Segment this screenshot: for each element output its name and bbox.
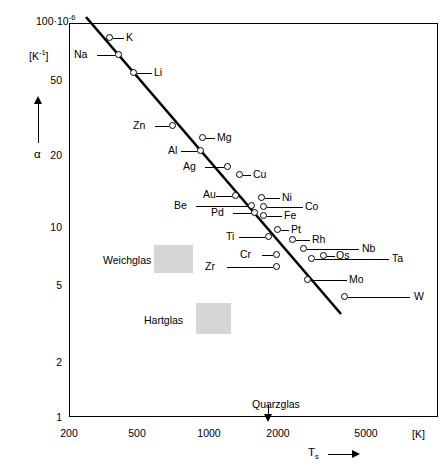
data-point-Ti[interactable] <box>265 233 272 240</box>
label-Be: Be <box>174 200 187 211</box>
ytick-2: 2 <box>28 357 62 368</box>
data-point-Mo[interactable] <box>304 276 311 283</box>
ytick-50: 50 <box>28 75 62 86</box>
xtick-1000: 1000 <box>189 428 229 439</box>
leader-Pd <box>233 213 251 214</box>
plot-area-frame <box>69 23 438 417</box>
leader-Al <box>181 151 197 152</box>
leader-Ag <box>205 167 224 168</box>
label-Li: Li <box>154 67 162 78</box>
label-Co: Co <box>305 201 318 212</box>
data-point-K[interactable] <box>106 34 113 41</box>
data-point-W[interactable] <box>341 293 348 300</box>
data-point-Al[interactable] <box>197 147 204 154</box>
leader-Cu <box>243 175 251 176</box>
data-point-Zn[interactable] <box>169 122 176 129</box>
label-Nb: Nb <box>362 243 375 254</box>
chart-container: 100·10-6 [K-1] α 50 20 10 5 2 1 200 500 … <box>0 0 447 474</box>
label-Cu: Cu <box>253 169 266 180</box>
data-point-Rh[interactable] <box>289 236 296 243</box>
label-Cr: Cr <box>240 249 251 260</box>
label-Mo: Mo <box>349 274 364 285</box>
data-point-Pd[interactable] <box>251 209 258 216</box>
data-point-Li[interactable] <box>130 69 137 76</box>
xtick-500: 500 <box>117 428 157 439</box>
leader-Au <box>216 196 232 197</box>
label-Mg: Mg <box>217 132 232 143</box>
data-point-Fe[interactable] <box>260 212 267 219</box>
region-hartglas-box <box>196 303 231 334</box>
data-point-Au[interactable] <box>232 192 239 199</box>
leader-Zn <box>155 126 169 127</box>
y-axis-unit: [K-1] <box>29 48 49 62</box>
data-point-Zr[interactable] <box>273 263 280 270</box>
label-Ta: Ta <box>392 253 403 264</box>
region-weichglas-label: Weichglas <box>103 255 151 266</box>
leader-Rh <box>296 240 310 241</box>
x-axis-unit: [K] <box>412 428 425 440</box>
leader-Li <box>137 73 152 74</box>
data-point-Ta[interactable] <box>308 255 315 262</box>
label-K: K <box>126 32 133 43</box>
xtick-2000: 2000 <box>258 428 298 439</box>
data-point-Ni[interactable] <box>258 194 265 201</box>
leader-Zr <box>227 267 273 268</box>
leader-W <box>348 297 410 298</box>
leader-Mg <box>206 138 215 139</box>
leader-Cr <box>262 255 273 256</box>
label-Rh: Rh <box>312 234 325 245</box>
annotation-quarzglas-label: Quarzglas <box>252 399 300 410</box>
leader-K <box>113 38 124 39</box>
data-point-Cu[interactable] <box>236 171 243 178</box>
ytick-5: 5 <box>28 280 62 291</box>
data-point-Pt[interactable] <box>274 226 281 233</box>
data-point-Mg[interactable] <box>199 134 206 141</box>
leader-Nb <box>307 249 359 250</box>
leader-Be <box>196 206 248 207</box>
label-W: W <box>414 291 424 302</box>
x-axis-symbol-ts: Ts <box>308 446 319 461</box>
label-Pd: Pd <box>211 207 224 218</box>
leader-Na <box>97 55 115 56</box>
label-Al: Al <box>168 145 177 156</box>
data-point-Be[interactable] <box>248 202 255 209</box>
region-weichglas-box <box>154 245 193 273</box>
label-Zr: Zr <box>205 261 215 272</box>
ytick-10: 10 <box>28 222 62 233</box>
leader-Ti <box>239 237 265 238</box>
label-Na: Na <box>74 49 87 60</box>
ytick-1: 1 <box>28 412 62 423</box>
label-Au: Au <box>203 189 216 200</box>
leader-Ni <box>265 198 280 199</box>
label-Ag: Ag <box>183 161 196 172</box>
leader-Pt <box>281 230 289 231</box>
label-Fe: Fe <box>284 210 296 221</box>
data-point-Cr[interactable] <box>273 251 280 258</box>
xtick-200: 200 <box>49 428 89 439</box>
xtick-5000: 5000 <box>346 428 386 439</box>
leader-Ta <box>315 259 389 260</box>
leader-Co <box>267 207 303 208</box>
leader-Os <box>327 256 335 257</box>
label-Zn: Zn <box>133 120 145 131</box>
label-Ni: Ni <box>282 192 292 203</box>
data-point-Nb[interactable] <box>300 245 307 252</box>
label-Ti: Ti <box>226 231 234 242</box>
leader-Mo <box>311 280 347 281</box>
ytick-20: 20 <box>28 150 62 161</box>
label-Pt: Pt <box>291 224 301 235</box>
data-point-Ag[interactable] <box>224 163 231 170</box>
data-point-Na[interactable] <box>115 51 122 58</box>
leader-Fe <box>267 216 282 217</box>
data-point-Co[interactable] <box>260 203 267 210</box>
region-hartglas-label: Hartglas <box>144 315 183 326</box>
